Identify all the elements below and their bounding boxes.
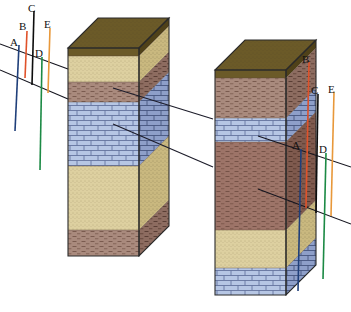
right-label-A: A <box>292 139 300 151</box>
cross-section-figure: A B C D E <box>0 0 351 312</box>
right-label-E: E <box>328 83 335 95</box>
left-label-E: E <box>44 18 51 30</box>
left-lower-datum-line <box>0 70 68 99</box>
left-well-B[interactable] <box>25 31 27 78</box>
left-label-B: B <box>19 20 26 32</box>
left-label-C: C <box>28 2 35 14</box>
right-label-C: C <box>311 84 318 96</box>
figure-canvas: A B C D E <box>0 0 351 312</box>
right-well-D[interactable] <box>323 153 326 279</box>
left-stratigraphic-column <box>68 18 169 256</box>
left-well-D[interactable] <box>40 57 42 170</box>
left-label-D: D <box>35 47 43 59</box>
left-well-set: A B C D E <box>0 2 68 170</box>
left-well-E[interactable] <box>48 28 50 93</box>
left-label-A: A <box>10 36 18 48</box>
right-well-E[interactable] <box>331 92 334 216</box>
right-label-D: D <box>319 143 327 155</box>
left-well-A[interactable] <box>15 45 19 131</box>
left-bed-soil-front <box>68 48 139 56</box>
right-bed-soil-front <box>215 70 286 78</box>
left-well-C[interactable] <box>32 11 34 85</box>
right-label-B: B <box>302 53 309 65</box>
